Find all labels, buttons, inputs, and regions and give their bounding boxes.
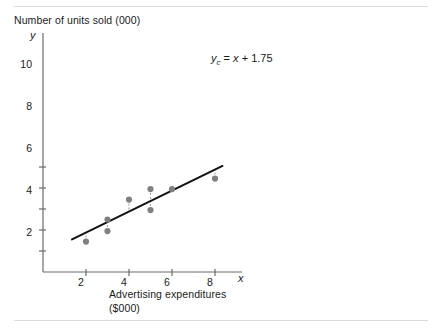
regression-equation-label: yc = x + 1.75 [211, 52, 273, 67]
x-axis-letter: x [238, 272, 244, 284]
equation-subscript: c [217, 58, 221, 67]
x-tick-label-8: 8 [200, 276, 220, 288]
x-tick-label-2: 2 [71, 276, 91, 288]
data-point-1 [104, 216, 110, 222]
axes-group [39, 33, 242, 276]
y-axis-letter: y [30, 29, 36, 41]
data-point-7 [212, 175, 218, 181]
regression-line-group [72, 166, 223, 240]
data-point-5 [147, 207, 153, 213]
equation-constant: 1.75 [251, 52, 272, 64]
data-point-0 [83, 238, 89, 244]
top-divider-rule [14, 6, 428, 7]
y-tick-label-6: 6 [10, 142, 32, 154]
y-tick-label-4: 4 [10, 184, 32, 196]
equation-plus: + [242, 52, 248, 64]
x-tick-label-6: 6 [157, 276, 177, 288]
regression-line [72, 166, 223, 240]
data-points-group [83, 175, 218, 244]
x-axis-caption-units: ($000) [109, 302, 140, 314]
equation-x-symbol: x [233, 52, 239, 64]
y-tick-label-2: 2 [10, 226, 32, 238]
y-tick-label-8: 8 [10, 100, 32, 112]
x-axis-caption: Advertising expenditures [109, 288, 226, 300]
chart-figure: Number of units sold (000) y x 2 4 6 8 1… [0, 0, 439, 332]
equation-equals: = [224, 52, 230, 64]
bottom-divider-rule [14, 320, 428, 321]
x-tick-label-4: 4 [114, 276, 134, 288]
data-point-4 [147, 186, 153, 192]
data-point-3 [126, 196, 132, 202]
y-tick-label-10: 10 [10, 58, 32, 70]
data-point-2 [104, 228, 110, 234]
data-point-6 [169, 186, 175, 192]
chart-title: Number of units sold (000) [14, 14, 140, 26]
